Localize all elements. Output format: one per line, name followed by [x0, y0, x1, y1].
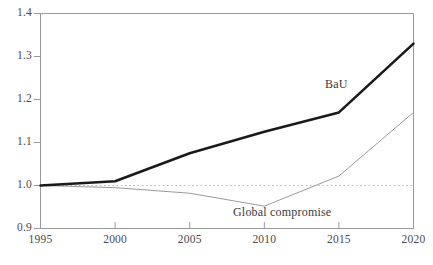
line-chart: 0.9 1.0 1.1 1.2 1.3 1.4 1995 2000 2005 2… — [0, 0, 433, 265]
y-axis-ticks — [34, 14, 41, 229]
series-label-global-compromise: Global compromise — [233, 205, 331, 220]
x-tick-label-5: 2020 — [392, 233, 433, 245]
y-tick-label-4: 1.3 — [2, 49, 32, 61]
x-tick-label-4: 2015 — [317, 233, 361, 245]
y-tick-label-5: 1.4 — [2, 6, 32, 18]
x-tick-label-0: 1995 — [19, 233, 63, 245]
x-tick-label-2: 2005 — [168, 233, 212, 245]
chart-plot-area — [0, 0, 433, 265]
x-tick-label-3: 2010 — [242, 233, 286, 245]
plot-frame — [41, 14, 414, 229]
y-tick-label-2: 1.1 — [2, 135, 32, 147]
y-tick-label-1: 1.0 — [2, 178, 32, 190]
series-line-bau — [41, 44, 414, 186]
x-tick-label-1: 2000 — [93, 233, 137, 245]
series-label-bau: BaU — [325, 77, 348, 92]
series-line-global-compromise — [41, 112, 414, 206]
y-tick-label-3: 1.2 — [2, 92, 32, 104]
y-tick-label-0: 0.9 — [2, 221, 32, 233]
x-axis-ticks — [41, 222, 414, 229]
